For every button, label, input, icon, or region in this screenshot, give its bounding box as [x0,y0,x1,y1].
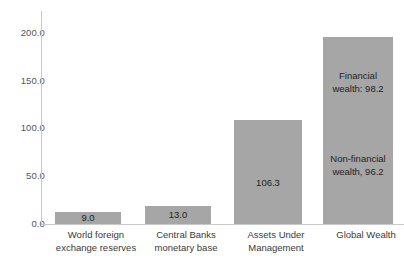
y-tick-label-200: 200.0 [3,28,45,38]
category-label-line1: Assets Under [247,229,304,240]
category-label-line1: Central Banks [156,229,216,240]
segment-label-financial-wealth: Financial wealth: 98.2 [323,70,393,95]
bar-value-label: 13.0 [145,209,211,221]
category-label-global-wealth: Global Wealth [314,229,404,242]
bar-chart: 200.0 150.0 100.0 50.0 0.0 9.0 13.0 106.… [0,0,404,266]
segment-label-financial-wealth-line2: wealth: 98.2 [332,83,383,94]
y-tick-label-50: 50.0 [3,171,45,181]
y-tick-label-100: 100.0 [3,123,45,133]
x-axis-line [41,224,404,225]
category-label-central-banks-monetary-base: Central Banks monetary base [134,229,238,254]
segment-label-non-financial-wealth: Non-financial wealth, 96.2 [323,153,393,178]
segment-label-non-financial-wealth-line1: Non-financial [330,153,385,164]
category-label-line1: Global Wealth [336,229,396,240]
bar-value-label: 106.3 [234,177,302,189]
segment-label-non-financial-wealth-line2: wealth, 96.2 [332,166,383,177]
segment-label-financial-wealth-line1: Financial [339,70,377,81]
plot-area: 9.0 13.0 106.3 Financial wealth: 98.2 No… [42,11,404,224]
category-label-assets-under-management: Assets Under Management [224,229,328,254]
y-tick-label-0: 0.0 [3,219,45,229]
category-label-line2: exchange reserves [56,242,136,253]
category-label-line2: monetary base [155,242,218,253]
category-label-line2: Management [248,242,303,253]
y-tick-label-150: 150.0 [3,76,45,86]
bar-global-wealth[interactable]: Financial wealth: 98.2 Non-financial wea… [323,37,393,224]
bar-central-banks-monetary-base[interactable]: 13.0 [145,206,211,224]
bar-assets-under-management[interactable]: 106.3 [234,120,302,224]
bar-world-foreign-exchange-reserves[interactable]: 9.0 [55,212,121,224]
bar-value-label: 9.0 [55,212,121,224]
category-label-world-foreign-exchange-reserves: World foreign exchange reserves [44,229,148,254]
category-label-line1: World foreign [68,229,124,240]
